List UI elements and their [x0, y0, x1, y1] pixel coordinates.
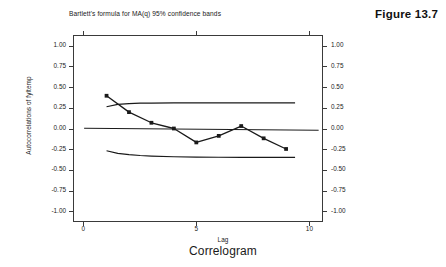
y-axis-left-tick-mark — [69, 46, 73, 47]
y-axis-right-tick-mark — [323, 149, 327, 150]
y-axis-left-tick-label: -1.00 — [51, 208, 66, 214]
y-axis-left-tick-label: 1.00 — [54, 42, 66, 48]
y-axis-right-tick-label: -0.25 — [331, 146, 346, 152]
y-axis-right-tick-mark — [323, 66, 327, 67]
y-axis-left-tick-mark — [69, 191, 73, 192]
figure-number-label: Figure 13.7 — [375, 8, 438, 20]
y-axis-right-tick-mark — [323, 108, 327, 109]
x-axis-top-tick-mark — [83, 31, 84, 35]
x-axis-title: Lag — [0, 236, 446, 243]
plot-area — [73, 35, 323, 222]
x-axis-tick-label: 5 — [195, 226, 199, 232]
upper-confidence-band-line — [107, 103, 296, 107]
y-axis-left-tick-mark — [69, 211, 73, 212]
x-axis-top-tick-mark — [309, 31, 310, 35]
y-axis-left-tick-mark — [69, 108, 73, 109]
y-axis-left-tick-mark — [69, 87, 73, 88]
y-axis-right-tick-label: 0.25 — [331, 104, 343, 110]
y-axis-left-tick-label: 0.25 — [54, 104, 66, 110]
y-axis-left-tick-label: -0.75 — [51, 187, 66, 193]
y-axis-right-tick-labels: 1.000.750.500.250.00-0.25-0.50-0.75-1.00 — [331, 35, 361, 222]
y-axis-left-tick-mark — [69, 149, 73, 150]
x-axis-tick-label: 0 — [81, 226, 85, 232]
y-axis-right-tick-label: 0.50 — [331, 84, 343, 90]
y-axis-left-tick-label: 0.75 — [54, 63, 66, 69]
plot-svg — [74, 36, 322, 221]
y-axis-right-tick-mark — [323, 191, 327, 192]
y-axis-right-tick-mark — [323, 129, 327, 130]
y-axis-right-tick-mark — [323, 170, 327, 171]
y-axis-left-tick-label: 0.50 — [54, 84, 66, 90]
x-axis-top-tick-mark — [196, 31, 197, 35]
y-axis-right-tick-label: 0.75 — [331, 63, 343, 69]
y-axis-title: Autocorrelations of fyltemp — [25, 41, 32, 191]
y-axis-left-tick-labels: 1.000.750.500.250.00-0.25-0.50-0.75-1.00 — [38, 35, 66, 222]
y-axis-right-tick-mark — [323, 87, 327, 88]
y-axis-right-tick-mark — [323, 46, 327, 47]
figure-container: Figure 13.7 Bartlett's formula for MA(q)… — [0, 0, 446, 267]
lower-confidence-band-line — [107, 151, 296, 158]
figure-caption: Correlogram — [0, 244, 446, 258]
zero-reference-line — [84, 128, 319, 130]
y-axis-right-tick-label: 1.00 — [331, 42, 343, 48]
y-axis-left-tick-mark — [69, 170, 73, 171]
y-axis-left-tick-mark — [69, 129, 73, 130]
y-axis-right-tick-mark — [323, 211, 327, 212]
x-axis-tick-label: 10 — [306, 226, 313, 232]
y-axis-left-tick-label: 0.00 — [54, 125, 66, 131]
y-axis-right-tick-label: 0.00 — [331, 125, 343, 131]
y-axis-left-tick-mark — [69, 66, 73, 67]
y-axis-right-tick-label: -1.00 — [331, 208, 346, 214]
y-axis-right-tick-label: -0.75 — [331, 187, 346, 193]
chart-title: Bartlett's formula for MA(q) 95% confide… — [69, 10, 221, 17]
y-axis-right-tick-label: -0.50 — [331, 166, 346, 172]
y-axis-left-tick-label: -0.50 — [51, 166, 66, 172]
y-axis-left-tick-label: -0.25 — [51, 146, 66, 152]
